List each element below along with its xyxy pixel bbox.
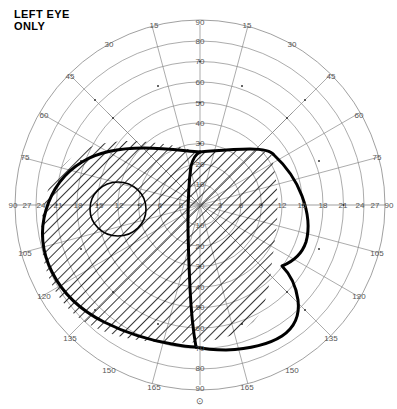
label-left-12: 12 — [115, 201, 124, 210]
meridian-label-r-165: 165 — [240, 383, 254, 392]
label-left-15: 15 — [95, 201, 104, 210]
label-up-90: 90 — [196, 18, 205, 27]
meridian-label-l-60: 60 — [40, 111, 49, 120]
meridian-label-l-45: 45 — [66, 72, 75, 81]
label-right-18: 18 — [319, 201, 328, 210]
meridian-label-r-15: 15 — [243, 21, 252, 30]
label-left-90: 90 — [9, 201, 18, 210]
meridian-label-l-120: 120 — [37, 292, 51, 301]
meridian-label-r-30: 30 — [288, 40, 297, 49]
label-up-60: 60 — [196, 78, 205, 87]
label-down-40: 40 — [196, 283, 205, 292]
label-down-90: 90 — [196, 384, 205, 393]
label-down-70: 70 — [196, 344, 205, 353]
label-up-80: 80 — [196, 37, 205, 46]
hatch-fill — [41, 141, 277, 343]
visual-field-chart: LEFT EYE ONLY — [0, 0, 397, 409]
label-down-60: 60 — [196, 324, 205, 333]
label-up-20: 20 — [196, 160, 205, 169]
label-left-6: 6 — [158, 201, 163, 210]
radial-tick-labels-horizontal-left: 3 6 9 12 15 18 21 24 27 90 — [9, 201, 184, 210]
label-down-10: 10 — [196, 221, 205, 230]
center-dot-icon — [199, 204, 201, 206]
label-right-27: 27 — [371, 201, 380, 210]
label-right-15: 15 — [298, 201, 307, 210]
label-left-3: 3 — [179, 201, 184, 210]
label-up-70: 70 — [196, 57, 205, 66]
label-left-24: 24 — [37, 201, 46, 210]
label-right-12: 12 — [278, 201, 287, 210]
meridian-label-r-105: 105 — [370, 249, 384, 258]
label-right-9: 9 — [259, 201, 264, 210]
label-left-18: 18 — [74, 201, 83, 210]
meridian-label-l-150: 150 — [102, 366, 116, 375]
label-right-21: 21 — [339, 201, 348, 210]
label-up-50: 50 — [196, 99, 205, 108]
meridian-label-r-75: 75 — [373, 153, 382, 162]
label-down-30: 30 — [196, 262, 205, 271]
meridian-label-r-60: 60 — [355, 111, 364, 120]
label-right-6: 6 — [239, 201, 244, 210]
meridian-label-l-135: 135 — [63, 334, 77, 343]
label-left-9: 9 — [138, 201, 143, 210]
label-up-40: 40 — [196, 119, 205, 128]
meridian-label-l-75: 75 — [21, 153, 30, 162]
label-up-10: 10 — [196, 180, 205, 189]
label-right-3: 3 — [218, 201, 223, 210]
meridian-label-l-30: 30 — [105, 40, 114, 49]
label-down-50: 50 — [196, 303, 205, 312]
label-right-24: 24 — [356, 201, 365, 210]
meridian-label-l-165: 165 — [147, 383, 161, 392]
label-down-20: 20 — [196, 242, 205, 251]
meridian-label-r-135: 135 — [324, 334, 338, 343]
meridian-label-l-105: 105 — [18, 249, 32, 258]
label-left-27: 27 — [23, 201, 32, 210]
label-left-21: 21 — [54, 201, 63, 210]
meridian-label-r-120: 120 — [352, 292, 366, 301]
scotoma-hatched-region — [41, 141, 277, 343]
meridian-label-r-45: 45 — [327, 72, 336, 81]
label-right-90: 90 — [385, 201, 394, 210]
label-up-30: 30 — [196, 139, 205, 148]
meridian-label-l-15: 15 — [150, 21, 159, 30]
meridian-label-r-150: 150 — [285, 366, 299, 375]
label-down-80: 80 — [196, 364, 205, 373]
perimetry-plot: 10 20 30 40 50 60 70 80 90 10 20 30 40 5… — [0, 0, 397, 409]
fixation-target-icon: ⊙ — [196, 396, 204, 406]
